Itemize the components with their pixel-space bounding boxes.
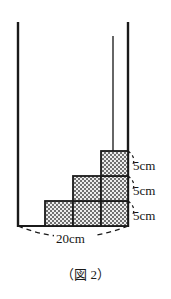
block-stack [45, 151, 128, 226]
stepped-blocks-svg: 5cm 5cm 5cm 20cm [0, 0, 171, 299]
figure-2-diagram: 5cm 5cm 5cm 20cm （図 2） [0, 0, 171, 299]
block-cell [45, 201, 73, 226]
base-dimension-label: 20cm [56, 231, 85, 246]
block-cell [101, 151, 128, 176]
height-label-top: 5cm [133, 158, 155, 173]
block-cell [101, 201, 128, 226]
block-cell [73, 176, 101, 201]
block-cell [73, 201, 101, 226]
height-label-middle: 5cm [133, 183, 155, 198]
figure-caption: （図 2） [0, 264, 171, 283]
block-cell [101, 176, 128, 201]
height-label-bottom: 5cm [133, 208, 155, 223]
